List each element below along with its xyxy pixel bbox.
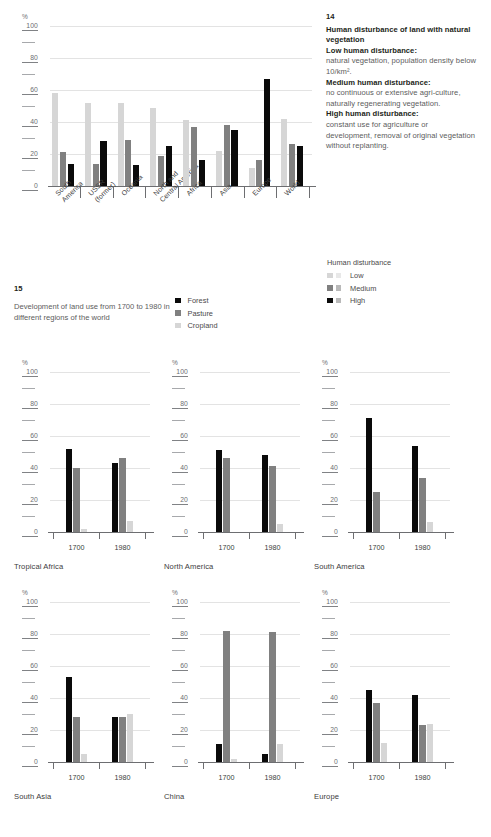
y-axis-tick-label: 0 <box>22 182 38 189</box>
bar-high <box>231 130 237 186</box>
legend-land-use: Forest Pasture Cropland <box>175 296 218 334</box>
legend-swatch-cropland-icon <box>175 323 181 329</box>
legend-label-forest: Forest <box>188 296 209 305</box>
y-axis-minor-tick <box>172 618 185 619</box>
y-axis-tick-label: 20 <box>22 150 38 157</box>
bar-forest <box>66 449 72 532</box>
y-axis-minor-tick <box>322 746 335 747</box>
gridline <box>50 666 150 667</box>
y-axis-minor-tick <box>22 618 35 619</box>
gridline <box>50 90 312 91</box>
y-axis-tick-rule <box>22 670 38 671</box>
legend-item-low[interactable]: Low <box>327 271 391 280</box>
gridline <box>350 404 450 405</box>
y-axis-tick-label: 100 <box>172 368 188 375</box>
y-axis-tick-label: 60 <box>322 662 338 669</box>
y-axis-tick-rule <box>172 734 188 735</box>
def-term-medium: Medium human disturbance: <box>326 78 431 87</box>
x-axis-line <box>198 762 304 763</box>
y-axis-tick-rule <box>322 536 338 537</box>
bar-forest <box>216 744 222 762</box>
y-axis-tick-rule <box>322 670 338 671</box>
y-axis-tick-label: 80 <box>172 630 188 637</box>
chart-title: North America <box>164 562 213 571</box>
x-axis-year-label: 1980 <box>403 773 442 782</box>
x-axis-year-label: 1980 <box>253 773 292 782</box>
legend-item-forest[interactable]: Forest <box>175 296 218 305</box>
y-axis-tick-label: 100 <box>172 598 188 605</box>
category-separator <box>145 186 146 198</box>
bar-cropland <box>277 524 283 532</box>
bar-pasture <box>119 717 125 762</box>
legend-item-medium[interactable]: Medium <box>327 284 391 293</box>
axis-tick <box>249 532 250 539</box>
y-axis-tick-rule <box>322 702 338 703</box>
legend-swatch-pasture-icon <box>175 310 181 316</box>
gridline <box>200 500 300 501</box>
bar-low <box>85 103 91 186</box>
y-axis-minor-tick <box>22 388 35 389</box>
bar-pasture <box>73 468 79 532</box>
x-axis-line <box>48 532 154 533</box>
y-axis-minor-tick <box>322 388 335 389</box>
gridline <box>200 436 300 437</box>
x-axis-year-label: 1700 <box>57 773 96 782</box>
gridline <box>50 634 150 635</box>
legend-item-high[interactable]: High <box>327 296 391 305</box>
x-axis-label: SouthAmerica <box>54 173 85 204</box>
bar-forest <box>412 446 418 532</box>
y-axis-tick-rule <box>172 702 188 703</box>
bar-pasture <box>119 458 125 532</box>
y-axis-tick-rule <box>322 734 338 735</box>
bar-low <box>52 93 58 186</box>
legend-item-pasture[interactable]: Pasture <box>175 309 218 318</box>
chart-title: Europe <box>314 792 339 801</box>
y-axis-tick-rule <box>22 638 38 639</box>
gridline <box>200 634 300 635</box>
y-axis-minor-tick <box>322 420 335 421</box>
figure-14-title: Human disturbance of land with natural v… <box>326 25 476 46</box>
y-axis-tick-rule <box>22 440 38 441</box>
legend-swatch-high-icon <box>327 298 333 304</box>
category-separator <box>276 186 277 198</box>
gridline <box>350 730 450 731</box>
y-axis-minor-tick <box>22 74 35 75</box>
def-text-low: natural vegetation, population density b… <box>326 56 476 77</box>
gridline <box>350 468 450 469</box>
y-axis-minor-tick <box>322 650 335 651</box>
y-axis-tick-rule <box>22 62 38 63</box>
y-axis-tick-label: 20 <box>22 726 38 733</box>
gridline <box>50 500 150 501</box>
x-axis-year-label: 1700 <box>357 543 396 552</box>
bar-low <box>183 120 189 186</box>
bar-forest <box>262 754 268 762</box>
gridline <box>50 58 312 59</box>
def-text-medium: no continuous or extensive agri-culture,… <box>326 88 476 109</box>
axis-tick <box>99 762 100 769</box>
gridline <box>350 698 450 699</box>
y-axis-minor-tick <box>172 650 185 651</box>
axis-tick <box>145 532 146 539</box>
y-axis-tick-label: 20 <box>322 496 338 503</box>
legend-swatch-low-secondary-icon <box>336 273 342 279</box>
y-axis-tick-rule <box>172 440 188 441</box>
y-axis-tick-label: 20 <box>172 496 188 503</box>
y-axis-tick-rule <box>22 408 38 409</box>
y-axis-tick-label: 80 <box>22 54 38 61</box>
y-axis-tick-rule <box>322 440 338 441</box>
y-axis-tick-rule <box>22 126 38 127</box>
y-axis-tick-rule <box>22 606 38 607</box>
axis-tick <box>353 762 354 769</box>
bar-forest <box>216 450 222 532</box>
y-axis-tick-label: 40 <box>22 464 38 471</box>
bar-pasture <box>269 466 275 532</box>
chart-europe: %02040608010017001980Europe <box>314 588 454 788</box>
gridline <box>50 602 150 603</box>
axis-tick <box>295 532 296 539</box>
x-axis-year-label: 1980 <box>103 543 142 552</box>
legend-item-cropland[interactable]: Cropland <box>175 321 218 330</box>
y-axis-tick-rule <box>22 702 38 703</box>
category-separator <box>309 186 310 198</box>
gridline <box>200 372 300 373</box>
y-axis-tick-rule <box>322 504 338 505</box>
